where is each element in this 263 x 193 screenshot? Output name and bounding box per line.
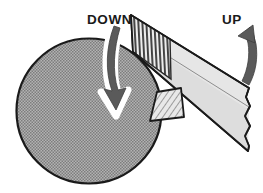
diagram-svg <box>0 0 263 193</box>
label-up: UP <box>222 13 242 27</box>
up-arrow-head <box>238 25 255 43</box>
figure-canvas: DOWN UP <box>0 0 263 193</box>
up-arrow <box>238 25 257 85</box>
drum <box>17 39 162 184</box>
label-down: DOWN <box>87 13 132 27</box>
drum-circle <box>17 39 162 184</box>
